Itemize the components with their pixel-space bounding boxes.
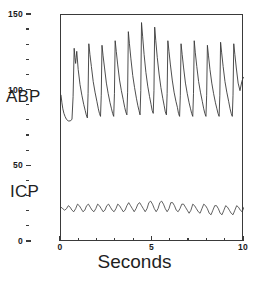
- chart-figure: 050100150 0510 ABP ICP Seconds: [0, 0, 269, 283]
- tick-mark: [224, 238, 225, 241]
- abp-series-label: ABP: [6, 88, 41, 105]
- tick-mark: [26, 119, 29, 120]
- tick-mark: [169, 238, 170, 241]
- tick-mark: [26, 150, 29, 151]
- tick-mark: [26, 13, 31, 14]
- tick-mark: [133, 238, 134, 241]
- tick-mark: [78, 238, 79, 241]
- tick-mark: [151, 236, 152, 241]
- icp-waveform-line: [61, 201, 244, 215]
- waveform-canvas: [61, 15, 244, 242]
- abp-waveform-line: [61, 23, 244, 121]
- tick-mark: [114, 238, 115, 241]
- tick-mark: [242, 236, 243, 241]
- tick-mark: [26, 180, 29, 181]
- tick-mark: [26, 165, 31, 166]
- tick-mark: [26, 240, 31, 241]
- tick-mark: [26, 28, 29, 29]
- tick-mark: [187, 238, 188, 241]
- x-axis-tick-label: 0: [57, 243, 62, 252]
- y-axis-tick-label: 150: [8, 10, 23, 19]
- x-axis-tick-label: 10: [238, 243, 248, 252]
- tick-mark: [96, 238, 97, 241]
- tick-mark: [26, 44, 29, 45]
- tick-mark: [206, 238, 207, 241]
- y-axis-tick-label: 0: [18, 237, 23, 246]
- tick-mark: [59, 236, 60, 241]
- tick-mark: [26, 210, 29, 211]
- plot-area: [60, 14, 243, 241]
- tick-mark: [26, 74, 29, 75]
- caption-sliver: [0, 276, 269, 283]
- y-axis-tick-label: 50: [13, 161, 23, 170]
- tick-mark: [26, 225, 29, 226]
- x-axis-title: Seconds: [0, 252, 269, 271]
- tick-mark: [26, 59, 29, 60]
- icp-series-label: ICP: [10, 183, 39, 200]
- tick-mark: [26, 134, 29, 135]
